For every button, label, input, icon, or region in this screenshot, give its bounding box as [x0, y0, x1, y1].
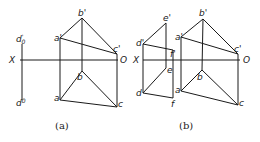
- label-e: e: [167, 65, 173, 75]
- axis-o-label-a: O: [120, 55, 127, 65]
- axis-o-label-b: O: [243, 55, 250, 65]
- label-f-prime: f': [170, 49, 176, 59]
- label-c-prime-b: c': [234, 44, 241, 54]
- connector-b-b: [202, 19, 203, 70]
- edge-d-prime-e-prime: [143, 23, 166, 44]
- label-d-prime: d': [136, 38, 144, 48]
- caption-a: (a): [55, 120, 69, 131]
- projection-diagram: X O d'0 d0 a' b' c' a b c (a) X O: [0, 0, 260, 142]
- axis-x-label-b: X: [132, 55, 140, 65]
- axis-x-label-a: X: [8, 55, 16, 65]
- d0-label: d0: [16, 97, 26, 108]
- label-f: f: [171, 99, 176, 109]
- label-b-b: b: [197, 72, 203, 82]
- caption-b: (b): [179, 120, 193, 131]
- edge-d-f: [143, 93, 173, 98]
- triangle-top-view-a: [60, 71, 117, 107]
- label-a-prime-b: a': [175, 32, 183, 42]
- label-b-prime-b: b': [199, 8, 207, 18]
- label-a-b: a: [175, 85, 181, 95]
- triangle-front-view-b: [181, 19, 238, 54]
- label-c-prime-a: c': [113, 44, 120, 54]
- label-e-prime: e': [163, 13, 171, 23]
- figure-a: X O d'0 d0 a' b' c' a b c (a): [8, 8, 127, 131]
- label-c-a: c: [118, 99, 123, 109]
- edge-d-e: [143, 68, 166, 93]
- d0-prime-label: d'0: [16, 33, 25, 45]
- label-b-a: b: [77, 72, 83, 82]
- label-a-prime-a: a': [54, 33, 62, 43]
- triangle-top-view-b: [181, 70, 238, 105]
- label-a-a: a: [54, 93, 60, 103]
- figure-b: X O a' b' c' a b c d' e' f' d e f (b): [132, 8, 250, 131]
- label-b-prime-a: b': [78, 8, 86, 18]
- triangle-front-view-a: [60, 18, 117, 54]
- label-c-b: c: [239, 98, 244, 108]
- label-d: d: [136, 88, 142, 98]
- edge-d-prime-f-prime: [143, 44, 173, 50]
